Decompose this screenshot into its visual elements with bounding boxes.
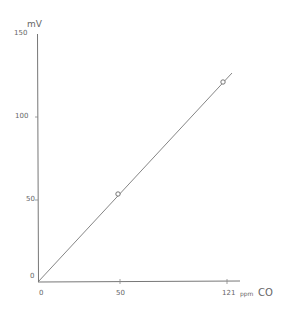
x-axis-label-gas: CO [258, 288, 273, 298]
x-tick-label-50: 50 [116, 290, 125, 297]
y-axis-label: mV [27, 20, 42, 29]
chart-plot [0, 0, 282, 312]
y-tick-label-150: 150 [14, 30, 27, 37]
x-tick-label-0: 0 [39, 290, 43, 297]
y-tick-label-100: 100 [15, 113, 28, 120]
y-tick-label-0: 0 [30, 273, 34, 280]
calibration-line [38, 73, 232, 282]
data-point-50 [116, 192, 120, 196]
x-tick-label-121: 121 [222, 290, 235, 297]
data-point-121 [221, 80, 225, 84]
y-axis [38, 34, 39, 282]
x-axis [38, 281, 240, 282]
y-tick-label-50: 50 [26, 196, 35, 203]
x-axis-label-prefix: ppm [240, 291, 253, 297]
chart: mV 150 100 50 0 0 50 121 ppm CO [0, 0, 282, 312]
